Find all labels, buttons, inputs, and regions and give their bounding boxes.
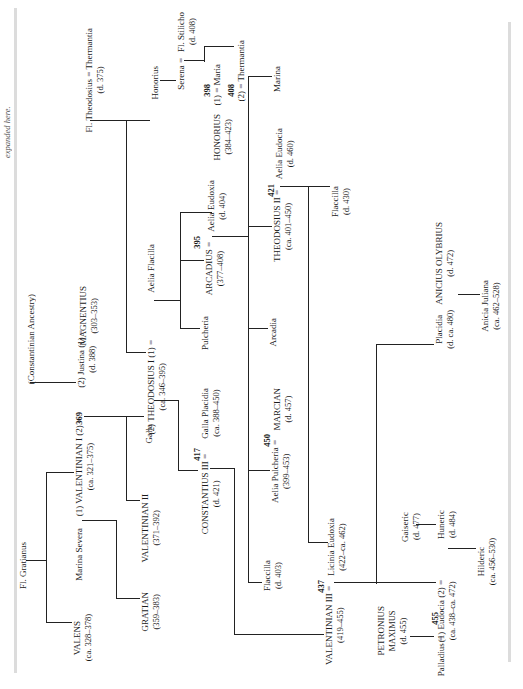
line-gratianus (26, 560, 46, 561)
serena: Serena = (176, 58, 187, 90)
line-to-thermantia (204, 46, 234, 47)
marina-severa: Marina Severa (74, 528, 85, 581)
line-to-arcadius (180, 260, 204, 261)
line-huneric-hilderic (448, 548, 476, 549)
line-to-flaccilla-430 (308, 186, 330, 187)
theodosius-ii: THEODOSIUS II =(ca. 401–450) (272, 190, 294, 262)
line-vii-galla (126, 416, 127, 500)
line-to-honorius-elder (126, 120, 150, 121)
line-to-licinia (308, 542, 328, 543)
line-to-valentinian-i (46, 472, 74, 473)
aelia-pulcheria: Aelia Pulcheria =(399–453) (270, 440, 292, 503)
licinia-eudoxia: Licinia Eudoxia(422–ca. 462) (326, 518, 348, 576)
honorius: HONORIUS(384–423) (212, 114, 234, 161)
line-viii-kids (376, 344, 377, 584)
line-petronius-palladius (410, 636, 434, 637)
valentinian-iii: VALENTINIAN III =(419–455) (324, 586, 346, 665)
line-to-eudocia (376, 582, 436, 583)
flaccilla-430: Flaccilla(d. 430) (330, 186, 352, 217)
fl-gratianus: Fl. Gratianus (18, 542, 29, 589)
line-to-marina (248, 76, 272, 77)
flaccilla-403: Flaccilla(d. 403) (262, 560, 284, 591)
line-to-arcadia (248, 328, 268, 329)
anicia-juliana: Anicia Juliana(ca. 462–528) (480, 280, 502, 332)
gratian: GRATIAN(359–383) (140, 592, 162, 632)
line-to-theodosius-i (126, 352, 146, 353)
valentinian-ii: VALENTINIAN II(371–392) (140, 494, 162, 563)
line-fl-theod-sibs (126, 120, 127, 352)
pulcheria: Pulcheria (200, 316, 211, 350)
aelia-flacilla: Aelia Flacilla (146, 244, 157, 293)
line-417 (210, 468, 234, 469)
line-369 (84, 416, 126, 417)
galla-placidia: Galla Placidia(ca. 388–450) (200, 388, 222, 439)
line-gaiseric-huneric (416, 524, 436, 525)
figure-caption: expanded here. (2, 8, 12, 158)
line-licinia-drop (308, 186, 309, 542)
line-honorius-serena (160, 80, 176, 81)
arcadia: Arcadia (268, 318, 279, 346)
line-stilicho-kids (204, 46, 205, 62)
petronius-maximus: PETRONIUSMAXIMUS(d. 455) (376, 606, 409, 656)
line-to-flaccilla-403 (248, 582, 262, 583)
placidia: Placidia(d. ca. 480) (434, 310, 456, 349)
line-to-theodosius-ii (248, 226, 272, 227)
line-to-aelia-pulcheria (248, 470, 270, 471)
aelia-eudoxia: Aelia Eudoxia(d. 404) (206, 180, 228, 232)
line-theod-kids (180, 212, 181, 328)
fl-theodosius: Fl. Theodosius = Thermantia (d. 375) (84, 28, 106, 132)
valens: VALENS(ca. 328–378) (72, 614, 94, 661)
year-395: 395 (192, 236, 202, 249)
year-398: 398 (202, 84, 212, 97)
theodosius-i: (2) THEODOSIUS I (1) =(ca. 346–395) (146, 340, 168, 434)
marina: Marina (272, 66, 283, 92)
page-edge-left (14, 8, 17, 673)
line-395 (212, 236, 248, 237)
line-placidia-olybrius (458, 294, 480, 295)
line-serena-stilicho (184, 60, 204, 61)
line-theod-flacilla (154, 300, 180, 301)
maria: (1) = Maria (212, 64, 223, 106)
page-edge-right (508, 22, 511, 662)
line-gp-drop (178, 400, 179, 470)
line-to-gratian (116, 598, 140, 599)
line-galla-theod (154, 400, 178, 401)
year-455: 455 (430, 612, 440, 625)
constantinian-ancestry: (Constantinian Ancestry) (26, 294, 37, 384)
honorius-elder: Honorius (150, 66, 161, 100)
stilicho: Fl. Stilicho(d. 408) (176, 12, 198, 52)
arcadius: ARCADIUS =(377–408) (204, 242, 226, 295)
hilderic: Hilderic(ca. 456–530) (476, 538, 498, 585)
thermantia: (2) = Thermantia (236, 40, 247, 101)
line-viii-drop (234, 468, 235, 634)
line-fl-theodosius (90, 120, 126, 121)
line-to-placidia (376, 344, 434, 345)
aelia-eudocia: Aelia Eudocia(d. 460) (274, 128, 296, 179)
gaiseric: Gaiseric(d. 477) (400, 512, 422, 542)
huneric: Huneric(d. 484) (436, 510, 458, 539)
line-gratian-drop (116, 520, 117, 598)
line-constantinian (30, 382, 76, 383)
year-408: 408 (226, 84, 236, 97)
magnentius: MAGNENTIUS(303–353) (78, 286, 100, 346)
marcian: MARCIAN(d. 457) (272, 388, 294, 431)
valentinian-i: (1) VALENTINIAN I (2) =(ca. 321–375) (74, 418, 96, 516)
line-to-valentinian-iii (234, 634, 324, 635)
line-to-pulcheria (180, 328, 200, 329)
line-to-valens (46, 622, 72, 623)
line-to-honorius (180, 212, 212, 213)
line-to-galla (126, 416, 144, 417)
anicius-olybrius: ANICIUS OLYBRIUS(d. 472) (434, 222, 456, 305)
line-marina-severa (82, 520, 116, 521)
palladius: Palladius = (436, 636, 447, 676)
constantius-iii: CONSTANTIUS III =(d. 421) (200, 454, 222, 534)
line-to-valentinian-ii (126, 500, 140, 501)
line-gratianus-sibs (46, 472, 47, 622)
line-to-galla-placidia (178, 470, 198, 471)
